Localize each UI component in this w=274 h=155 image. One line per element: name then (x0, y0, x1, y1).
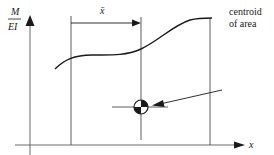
y-axis-arrow-icon (26, 15, 35, 26)
xbar-arrow-icon (132, 20, 141, 27)
x-axis-label: x (248, 139, 254, 150)
centroid-pointer-arrow (152, 90, 222, 107)
annotation-centroid: centroid (229, 6, 262, 17)
y-axis (26, 15, 35, 155)
x-axis: x (15, 139, 254, 150)
xbar-label: x̄ (99, 5, 105, 16)
mei-diagram: M EI x x̄ centroid of area (0, 0, 274, 155)
pointer-arrowhead-icon (152, 100, 165, 107)
x-axis-arrow-icon (234, 142, 245, 149)
xbar-dimension: x̄ (71, 5, 141, 27)
y-axis-label: M EI (7, 6, 21, 32)
y-label-denominator: EI (7, 21, 18, 32)
annotation-of-area: of area (229, 18, 257, 29)
y-label-numerator: M (10, 6, 20, 17)
